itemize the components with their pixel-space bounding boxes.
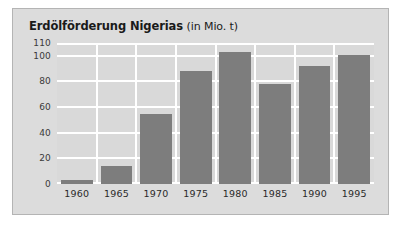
gridline-vertical [254,43,256,184]
chart-card: Erdölförderung Nigerias (in Mio. t) 0204… [12,8,389,215]
x-axis-tick-label: 1960 [64,188,89,199]
x-axis-tick-label: 1970 [144,188,169,199]
bar [299,66,331,184]
bar [259,84,291,184]
bar [180,71,212,184]
gridline-vertical [96,43,98,184]
x-axis-tick-label: 1980 [223,188,248,199]
y-axis-tick-label: 20 [39,153,51,163]
gridline-vertical [215,43,217,184]
x-axis-tick-label: 1965 [104,188,129,199]
y-axis-tick-label: 110 [33,38,51,48]
y-axis-tick-label: 100 [33,51,51,61]
bar [101,166,133,184]
chart-title-unit: (in Mio. t) [187,20,238,33]
gridline-vertical [294,43,296,184]
x-axis-tick-label: 1990 [302,188,327,199]
x-axis-tick-label: 1995 [342,188,367,199]
x-axis: 19601965197019751980198519901995 [57,188,374,202]
bar [140,114,172,185]
chart-title-main: Erdölförderung Nigerias [29,19,183,33]
plot-wrapper: 020406080100110 196019651970197519801985… [29,43,374,201]
y-axis-tick-label: 0 [45,179,51,189]
chart-title: Erdölförderung Nigerias (in Mio. t) [29,19,238,33]
bar [219,52,251,184]
y-axis-tick-label: 40 [39,128,51,138]
plot-area [57,43,374,184]
y-axis-tick-label: 60 [39,102,51,112]
gridline-vertical [175,43,177,184]
x-axis-tick-label: 1975 [183,188,208,199]
bar [338,55,370,184]
bar [61,180,93,184]
y-axis: 020406080100110 [29,43,55,184]
gridline-vertical [135,43,137,184]
x-axis-tick-label: 1985 [262,188,287,199]
gridline-vertical [333,43,335,184]
y-axis-tick-label: 80 [39,76,51,86]
